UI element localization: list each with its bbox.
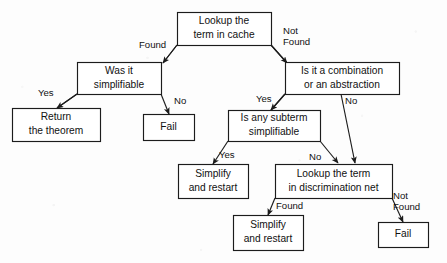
node-label-simplify-and-restart-middle: and restart [189, 182, 238, 193]
node-lookup-term-in-discrimination-net[interactable]: Lookup the termin discrimination net [276, 165, 393, 199]
node-label-lookup-term-in-discrimination-net: Lookup the term [297, 168, 371, 179]
node-label-was-it-simplifiable: simplifiable [94, 79, 145, 90]
node-label-is-it-a-combination-or-abstraction: Is it a combination [301, 65, 383, 76]
node-return-the-theorem[interactable]: Returnthe theorem [13, 109, 101, 142]
node-label-fail-right: Fail [395, 228, 411, 239]
edge-edge-discrimination-net-found [268, 198, 275, 215]
edge-label-edge-is-combination-no: No [345, 95, 357, 106]
node-label-was-it-simplifiable: Was it [105, 65, 133, 76]
edge-edge-was-simplifiable-yes [57, 94, 77, 108]
edge-edge-is-subterm-no [320, 141, 338, 163]
flowchart-canvas: Lookup theterm in cacheWas itsimplifiabl… [0, 0, 447, 263]
edge-label-edge-cache-not-found: Found [283, 36, 310, 47]
node-fail-left[interactable]: Fail [144, 115, 195, 141]
edge-label-edge-is-combination-yes: Yes [256, 93, 272, 104]
node-label-is-any-subterm-simplifiable: simplifiable [249, 126, 300, 137]
flowchart-svg: Lookup theterm in cacheWas itsimplifiabl… [0, 0, 447, 263]
edge-label-edge-discrimination-net-not-found: Found [393, 201, 420, 212]
node-label-simplify-and-restart-bottom: and restart [244, 233, 293, 244]
node-simplify-and-restart-middle[interactable]: Simplifyand restart [179, 165, 249, 199]
node-label-lookup-term-in-cache: Lookup the [199, 15, 250, 26]
edge-label-edge-cache-found: Found [139, 39, 166, 50]
node-label-lookup-term-in-cache: term in cache [193, 29, 254, 40]
node-label-simplify-and-restart-middle: Simplify [195, 168, 232, 179]
node-lookup-term-in-cache[interactable]: Lookup theterm in cache [178, 13, 272, 46]
node-label-simplify-and-restart-bottom: Simplify [250, 219, 287, 230]
node-was-it-simplifiable[interactable]: Was itsimplifiable [78, 63, 162, 95]
edge-label-edge-discrimination-net-found: Found [276, 200, 303, 211]
edge-edge-was-simplifiable-no [161, 94, 169, 114]
node-is-it-a-combination-or-abstraction[interactable]: Is it a combinationor an abstraction [286, 63, 400, 95]
node-simplify-and-restart-bottom[interactable]: Simplifyand restart [234, 216, 304, 251]
node-label-is-it-a-combination-or-abstraction: or an abstraction [304, 79, 380, 90]
node-label-lookup-term-in-discrimination-net: in discrimination net [288, 182, 378, 193]
edge-label-edge-is-subterm-yes: Yes [219, 149, 235, 160]
edge-label-edge-discrimination-net-not-found: Not [393, 190, 408, 201]
nodes-layer: Lookup theterm in cacheWas itsimplifiabl… [13, 13, 429, 251]
edge-edge-is-combination-yes [271, 94, 285, 110]
edge-label-edge-was-simplifiable-no: No [174, 95, 186, 106]
node-label-fail-left: Fail [160, 121, 176, 132]
edge-label-edge-was-simplifiable-yes: Yes [38, 87, 54, 98]
edge-edge-cache-not-found [271, 45, 287, 63]
node-label-is-any-subterm-simplifiable: Is any subterm [241, 112, 308, 123]
node-label-return-the-theorem: the theorem [29, 125, 83, 136]
node-label-return-the-theorem: Return [41, 111, 72, 122]
edge-label-edge-is-subterm-no: No [309, 151, 321, 162]
edge-label-edge-cache-not-found: Not [283, 25, 298, 36]
node-fail-right[interactable]: Fail [379, 223, 429, 248]
node-is-any-subterm-simplifiable[interactable]: Is any subtermsimplifiable [229, 111, 321, 142]
